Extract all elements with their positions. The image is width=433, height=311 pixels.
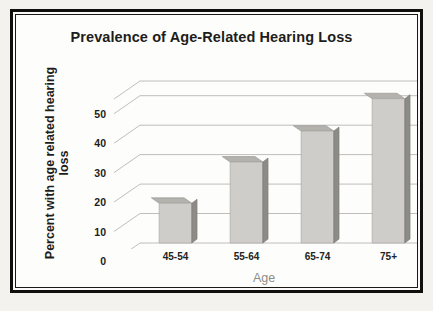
y-axis-tick-label: 30 xyxy=(72,167,106,179)
y-axis-title-line2: loss xyxy=(57,66,71,258)
y-axis-tick-label: 40 xyxy=(72,137,106,149)
plot-svg xyxy=(114,67,417,249)
bar-front-face xyxy=(159,203,192,243)
bar-top-face xyxy=(222,157,262,162)
plot-area xyxy=(114,67,417,249)
y-axis-tick-label: 0 xyxy=(72,255,106,267)
chart-frame-inner: Prevalence of Age-Related Hearing Loss P… xyxy=(15,14,418,288)
bar-series xyxy=(151,93,410,243)
y-axis-tick-label: 50 xyxy=(72,108,106,120)
gridline xyxy=(114,243,417,249)
chart-frame-outer: Prevalence of Age-Related Hearing Loss P… xyxy=(10,9,423,293)
bar-chart: Prevalence of Age-Related Hearing Loss P… xyxy=(16,15,417,287)
x-axis-title: Age xyxy=(114,271,414,285)
bar-top-face xyxy=(293,126,333,131)
y-axis-tick-labels: 01020304050 xyxy=(72,15,106,287)
x-axis-tick-label: 75+ xyxy=(380,251,397,262)
bar-side-face xyxy=(334,127,339,243)
bar-side-face xyxy=(405,95,410,243)
x-axis-tick-label: 65-74 xyxy=(305,251,331,262)
x-axis-tick-label: 45-54 xyxy=(163,251,189,262)
bar-top-face xyxy=(364,93,404,98)
y-axis-title: Percent with age related hearing loss xyxy=(42,55,72,270)
bar-45-54 xyxy=(151,198,197,243)
bar-front-face xyxy=(372,99,405,243)
bar-side-face xyxy=(263,158,268,243)
bar-side-face xyxy=(192,199,197,243)
bar-75plus xyxy=(364,93,410,243)
y-axis-tick-label: 10 xyxy=(72,226,106,238)
bar-top-face xyxy=(151,198,191,203)
y-axis-title-line1: Percent with age related hearing xyxy=(43,66,57,258)
bar-front-face xyxy=(230,162,263,243)
bar-55-64 xyxy=(222,157,268,243)
gridline xyxy=(114,125,417,143)
x-axis-tick-labels: 45-5455-6465-7475+ xyxy=(114,251,417,267)
y-axis-tick-label: 20 xyxy=(72,196,106,208)
bar-front-face xyxy=(301,131,334,243)
scanned-page: Prevalence of Age-Related Hearing Loss P… xyxy=(0,0,433,311)
x-axis-tick-label: 55-64 xyxy=(234,251,260,262)
